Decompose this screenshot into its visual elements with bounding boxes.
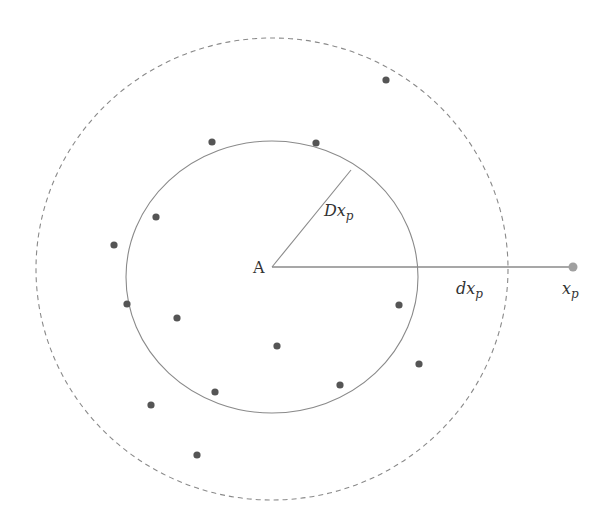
data-point	[147, 401, 154, 408]
data-point	[312, 139, 319, 146]
data-point	[211, 388, 218, 395]
data-point	[415, 360, 422, 367]
center-label-A: A	[252, 258, 265, 277]
data-point	[152, 213, 159, 220]
neighborhood-diagram: A Dxp dxp xp	[0, 0, 607, 529]
data-point	[208, 138, 215, 145]
radius-label: Dxp	[323, 201, 354, 223]
outer-dashed-circle	[36, 38, 508, 500]
query-point-label: xp	[562, 279, 579, 301]
data-point	[395, 301, 402, 308]
distance-label: dxp	[456, 279, 483, 301]
data-point	[110, 241, 117, 248]
inner-circle	[126, 141, 418, 413]
data-point	[123, 300, 130, 307]
data-point	[336, 381, 343, 388]
query-point-xp	[569, 263, 578, 272]
data-point	[173, 314, 180, 321]
data-point	[193, 451, 200, 458]
data-point	[273, 342, 280, 349]
data-point	[382, 76, 389, 83]
